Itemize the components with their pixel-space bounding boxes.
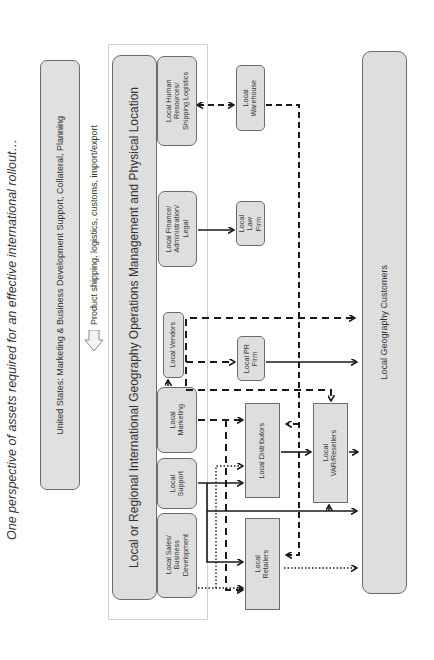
connector-lines [0,0,434,660]
diagram-canvas: One perspective of assets required for a… [0,0,434,660]
